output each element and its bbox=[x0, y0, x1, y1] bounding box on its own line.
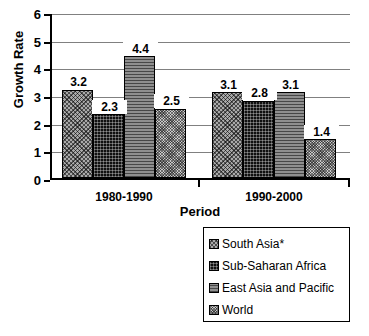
bar-south-asia-1980-1990[interactable] bbox=[62, 90, 93, 179]
y-tick-label-2: 2 bbox=[11, 119, 41, 132]
bar-value-east-asia-pacific-1980-1990: 4.4 bbox=[123, 42, 158, 56]
bar-sub-saharan-africa-1980-1990[interactable] bbox=[93, 114, 124, 178]
y-tick-label-5: 5 bbox=[11, 36, 41, 49]
bar-group-1980-1990: 3.2 2.3 4.4 2.5 bbox=[62, 14, 186, 178]
x-tick-mark-1 bbox=[198, 180, 200, 187]
chart-legend: South Asia* Sub-Saharan Africa East Asia… bbox=[203, 227, 350, 322]
legend-label-sub-saharan-africa: Sub-Saharan Africa bbox=[222, 260, 326, 272]
legend-label-east-asia-and-pacific: East Asia and Pacific bbox=[222, 282, 334, 294]
legend-swatch-east-asia-and-pacific-icon bbox=[209, 283, 219, 293]
y-tick-label-3: 3 bbox=[11, 91, 41, 104]
legend-item-south-asia[interactable]: South Asia* bbox=[209, 233, 349, 255]
legend-swatch-world-icon bbox=[209, 305, 219, 315]
y-axis: Growth Rate 6 5 4 3 2 1 0 bbox=[0, 0, 50, 194]
y-tick-label-6: 6 bbox=[11, 8, 41, 21]
bar-group-1990-2000: 3.1 2.8 3.1 1.4 bbox=[212, 14, 336, 178]
bar-value-east-asia-pacific-1990-2000: 3.1 bbox=[273, 78, 308, 92]
x-tick-label-1990-2000: 1990-2000 bbox=[212, 190, 336, 204]
legend-label-world: World bbox=[222, 304, 253, 316]
legend-swatch-sub-saharan-africa-icon bbox=[209, 261, 219, 271]
legend-swatch-south-asia-icon bbox=[209, 239, 219, 249]
legend-item-sub-saharan-africa[interactable]: Sub-Saharan Africa bbox=[209, 255, 349, 277]
growth-rate-bar-chart: Growth Rate 6 5 4 3 2 1 0 bbox=[0, 0, 369, 336]
legend-label-south-asia: South Asia* bbox=[222, 238, 284, 250]
bar-value-world-1980-1990: 2.5 bbox=[154, 94, 189, 108]
y-tick-label-4: 4 bbox=[11, 63, 41, 76]
bar-value-south-asia-1990-2000: 3.1 bbox=[211, 78, 246, 92]
y-tick-label-1: 1 bbox=[11, 146, 41, 159]
legend-item-world[interactable]: World bbox=[209, 299, 349, 321]
bar-sub-saharan-africa-1990-2000[interactable] bbox=[243, 101, 274, 179]
bar-east-asia-pacific-1980-1990[interactable] bbox=[124, 56, 155, 178]
bar-south-asia-1990-2000[interactable] bbox=[212, 92, 243, 178]
y-tick-mark-0 bbox=[44, 180, 50, 182]
bar-value-sub-saharan-africa-1990-2000: 2.8 bbox=[242, 86, 277, 100]
bar-world-1990-2000[interactable] bbox=[305, 139, 336, 178]
bar-world-1980-1990[interactable] bbox=[155, 109, 186, 178]
bar-east-asia-pacific-1990-2000[interactable] bbox=[274, 92, 305, 178]
bar-value-south-asia-1980-1990: 3.2 bbox=[61, 75, 96, 89]
plot-area: 3.2 2.3 4.4 2.5 3.1 2.8 3.1 1.4 bbox=[50, 14, 350, 180]
x-tick-label-1980-1990: 1980-1990 bbox=[62, 190, 186, 204]
bar-value-world-1990-2000: 1.4 bbox=[304, 125, 339, 139]
y-tick-label-0: 0 bbox=[11, 174, 41, 187]
bar-value-sub-saharan-africa-1980-1990: 2.3 bbox=[92, 100, 127, 114]
x-axis-title: Period bbox=[50, 204, 350, 219]
legend-item-east-asia-and-pacific[interactable]: East Asia and Pacific bbox=[209, 277, 349, 299]
x-tick-mark-2 bbox=[348, 180, 350, 187]
